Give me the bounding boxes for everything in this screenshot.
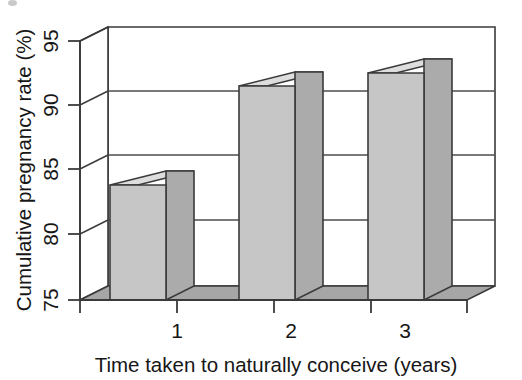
chart-figure: 95 90 85 80 75 Cumulative pregnancy rate…	[0, 0, 522, 380]
bar-2-side	[295, 72, 323, 300]
bar-3-side	[424, 59, 452, 300]
y-tick-label-80: 80	[39, 222, 62, 245]
bar-1-side	[166, 171, 194, 300]
bar-group-2[interactable]	[239, 72, 323, 300]
y-tick-label-90: 90	[39, 93, 62, 116]
x-axis	[80, 300, 467, 313]
x-tick-label-2: 2	[285, 319, 297, 342]
y-tick-label-95: 95	[39, 29, 62, 52]
x-tick-label-3: 3	[399, 319, 411, 342]
bar-group-1[interactable]	[110, 171, 194, 300]
bar-group-3[interactable]	[368, 59, 452, 300]
y-axis-title: Cumulative pregnancy rate (%)	[12, 29, 35, 312]
bar-1-front	[110, 185, 166, 300]
bar-3-front	[368, 73, 424, 300]
x-axis-title: Time taken to naturally conceive (years)	[95, 353, 458, 376]
y-tick-label-75: 75	[39, 288, 62, 311]
y-axis	[68, 41, 80, 300]
x-tick-label-1: 1	[171, 319, 183, 342]
plot-left-wall	[80, 27, 108, 300]
bar-chart-canvas: 95 90 85 80 75 Cumulative pregnancy rate…	[0, 0, 522, 380]
y-tick-label-85: 85	[39, 157, 62, 180]
bar-2-front	[239, 86, 295, 300]
